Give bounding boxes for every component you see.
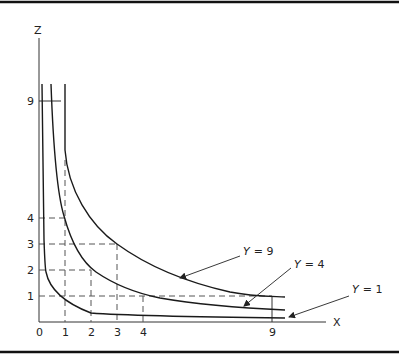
curve-y9 <box>65 84 285 297</box>
x-tick-2: 2 <box>88 326 95 339</box>
label-y9: Y= 9 <box>243 245 273 258</box>
z-tick-1: 1 <box>27 290 34 303</box>
arrow-y4 <box>244 268 291 306</box>
x-axis-label: X <box>333 316 341 329</box>
z-tick-4: 4 <box>27 212 34 225</box>
diagram-figure: Z X 9 4 3 2 1 0 1 2 3 4 9 <box>0 0 399 357</box>
label-y4: Y= 4 <box>294 258 324 271</box>
x-tick-1: 1 <box>62 326 69 339</box>
curve-y1 <box>42 84 285 318</box>
curve-y4 <box>51 84 285 310</box>
z-tick-2: 2 <box>27 264 34 277</box>
x-tick-4: 4 <box>140 326 147 339</box>
label-y1: Y= 1 <box>352 283 382 296</box>
z-axis-label: Z <box>34 24 42 37</box>
arrow-y1 <box>289 296 349 317</box>
x-tick-3: 3 <box>114 326 121 339</box>
reference-lines <box>39 101 272 322</box>
x-tick-9: 9 <box>269 326 276 339</box>
arrow-y9 <box>180 256 240 278</box>
x-tick-0: 0 <box>36 326 43 339</box>
z-tick-9: 9 <box>27 95 34 108</box>
z-tick-3: 3 <box>27 238 34 251</box>
